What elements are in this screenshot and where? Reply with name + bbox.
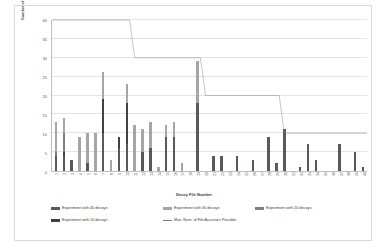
plot-area: Number of Decoy File Accesses 0510152025… xyxy=(15,6,373,196)
x-tick-slot: 37 xyxy=(336,174,344,190)
x-tick-slot: 23 xyxy=(225,174,233,190)
max-accesses-line xyxy=(52,20,367,171)
legend-row-1: Experiment with 40 decoysExperiment with… xyxy=(15,206,371,218)
legend-item-label: Experiment with 30 decoys xyxy=(174,206,219,210)
x-tick-slot: 12 xyxy=(138,174,146,190)
x-tick-slot: 19 xyxy=(193,174,201,190)
chart-container: Number of Decoy File Accesses 0510152025… xyxy=(14,5,372,241)
x-tick-slot: 30 xyxy=(280,174,288,190)
x-tick-40: 40 xyxy=(363,172,367,176)
x-tick-slot: 20 xyxy=(201,174,209,190)
y-tick-30: 30 xyxy=(43,56,47,61)
x-tick-slot: 35 xyxy=(320,174,328,190)
legend-item-label: Experiment with 20 decoys xyxy=(266,206,311,210)
x-tick-slot: 26 xyxy=(249,174,257,190)
y-tick-5: 5 xyxy=(45,151,47,156)
legend-swatch-icon xyxy=(51,219,60,222)
y-axis-tick-labels: 0510152025303540 xyxy=(29,20,49,172)
x-axis-tick-labels: 1234567891011121314151617181920212223242… xyxy=(51,174,367,190)
x-tick-slot: 11 xyxy=(130,174,138,190)
x-tick-slot: 8 xyxy=(106,174,114,190)
x-tick-slot: 39 xyxy=(351,174,359,190)
x-tick-slot: 16 xyxy=(170,174,178,190)
x-tick-slot: 14 xyxy=(154,174,162,190)
x-axis-title: Decoy File Number xyxy=(15,192,373,197)
x-tick-slot: 38 xyxy=(344,174,352,190)
legend-item[interactable]: Max. Num. of File Accesses Possible xyxy=(163,218,236,222)
x-tick-slot: 29 xyxy=(272,174,280,190)
legend-row-2: Experiment with 10 decoysMax. Num. of Fi… xyxy=(15,218,371,230)
legend-line-icon xyxy=(163,220,172,221)
y-tick-25: 25 xyxy=(43,75,47,80)
y-tick-0: 0 xyxy=(45,170,47,175)
x-tick-slot: 1 xyxy=(51,174,59,190)
x-tick-slot: 5 xyxy=(83,174,91,190)
legend-item-label: Max. Num. of File Accesses Possible xyxy=(174,218,236,222)
x-tick-slot: 7 xyxy=(98,174,106,190)
x-tick-slot: 21 xyxy=(209,174,217,190)
x-tick-slot: 25 xyxy=(241,174,249,190)
x-tick-slot: 15 xyxy=(162,174,170,190)
x-tick-slot: 17 xyxy=(178,174,186,190)
x-tick-slot: 28 xyxy=(264,174,272,190)
legend-item[interactable]: Experiment with 10 decoys xyxy=(51,218,107,222)
x-tick-slot: 3 xyxy=(67,174,75,190)
legend-item[interactable]: Experiment with 30 decoys xyxy=(163,206,219,210)
plot-canvas xyxy=(51,20,367,172)
y-tick-35: 35 xyxy=(43,37,47,42)
y-tick-15: 15 xyxy=(43,113,47,118)
legend-swatch-icon xyxy=(51,207,60,210)
y-tick-20: 20 xyxy=(43,94,47,99)
x-tick-slot: 13 xyxy=(146,174,154,190)
x-tick-slot: 34 xyxy=(312,174,320,190)
x-tick-slot: 33 xyxy=(304,174,312,190)
x-tick-slot: 24 xyxy=(233,174,241,190)
y-tick-40: 40 xyxy=(43,18,47,23)
legend-item[interactable]: Experiment with 40 decoys xyxy=(51,206,107,210)
x-tick-slot: 9 xyxy=(114,174,122,190)
x-tick-slot: 40 xyxy=(359,174,367,190)
legend-item[interactable]: Experiment with 20 decoys xyxy=(255,206,311,210)
x-tick-slot: 22 xyxy=(217,174,225,190)
x-tick-slot: 18 xyxy=(185,174,193,190)
legend-swatch-icon xyxy=(163,207,172,210)
x-tick-slot: 2 xyxy=(59,174,67,190)
chart-legend: Experiment with 40 decoysExperiment with… xyxy=(15,204,371,240)
x-tick-slot: 36 xyxy=(328,174,336,190)
x-tick-slot: 32 xyxy=(296,174,304,190)
x-tick-slot: 10 xyxy=(122,174,130,190)
legend-item-label: Experiment with 40 decoys xyxy=(62,206,107,210)
y-tick-10: 10 xyxy=(43,132,47,137)
legend-item-label: Experiment with 10 decoys xyxy=(62,218,107,222)
x-tick-slot: 6 xyxy=(91,174,99,190)
legend-swatch-icon xyxy=(255,207,264,210)
x-tick-slot: 27 xyxy=(257,174,265,190)
x-tick-slot: 4 xyxy=(75,174,83,190)
x-tick-slot: 31 xyxy=(288,174,296,190)
